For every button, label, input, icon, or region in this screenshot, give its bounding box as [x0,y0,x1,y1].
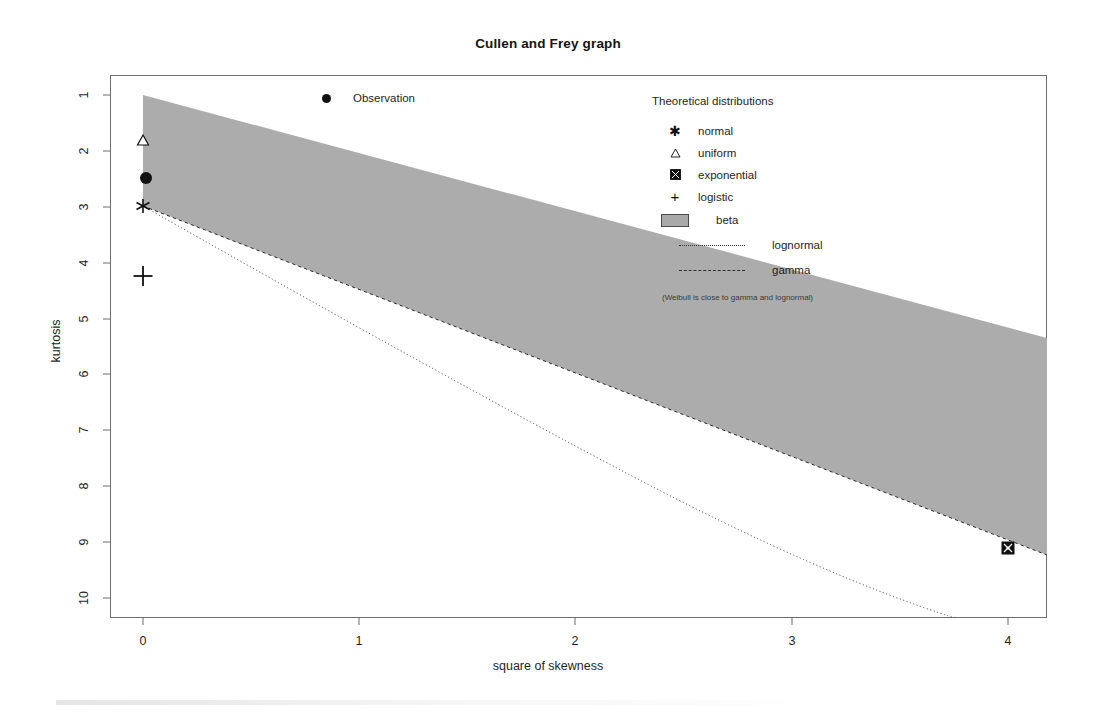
marker-observation [140,172,152,184]
legend-item-lognormal: lognormal [652,233,902,257]
observation-legend-label: Observation [353,92,415,104]
legend-item-beta: beta [652,208,902,232]
filled-circle-icon [322,94,331,103]
y-axis-ticks [100,75,110,618]
y-tick-10: 10 [77,581,91,615]
observation-legend: Observation [322,92,415,104]
legend-item-uniform: uniform [652,142,902,163]
y-tick-6: 6 [77,359,91,389]
x-tick-1: 1 [339,634,379,648]
marker-logistic [134,266,153,286]
x-tick-0: 0 [123,634,163,648]
cullen-frey-plot-canvas: Cullen and Frey graph [0,0,1096,720]
legend-item-exponential: exponential [652,164,902,185]
legend-item-normal: ✱ normal [652,120,902,141]
dotted-line-icon [652,245,772,246]
legend-label-beta: beta [716,214,738,226]
dashed-line-icon [652,270,772,271]
page-title: Cullen and Frey graph [0,36,1096,51]
theoretical-distributions-legend: Theoretical distributions ✱ normal unifo… [652,95,902,302]
plot-drawing-area [110,75,1047,618]
beta-region-texture [143,95,1047,555]
y-tick-5: 5 [77,304,91,334]
x-tick-3: 3 [772,634,812,648]
legend-label-exponential: exponential [698,169,757,181]
x-axis-title: square of skewness [0,659,1096,673]
legend-label-uniform: uniform [698,147,736,159]
legend-label-logistic: logistic [698,191,733,203]
gray-box-icon [652,214,698,227]
legend-note: (Weibull is close to gamma and lognormal… [662,293,902,302]
x-tick-4: 4 [988,634,1028,648]
y-tick-7: 7 [77,415,91,445]
marker-exponential [1002,542,1014,554]
y-tick-3: 3 [77,192,91,222]
legend-label-normal: normal [698,125,733,137]
y-tick-2: 2 [77,136,91,166]
legend-label-gamma: gamma [772,264,810,276]
triangle-icon [652,148,698,158]
y-axis-title: kurtosis [49,281,63,401]
asterisk-icon: ✱ [652,124,698,138]
x-tick-2: 2 [555,634,595,648]
theoretical-legend-heading: Theoretical distributions [652,95,902,107]
legend-item-gamma: gamma [652,258,902,282]
y-tick-4: 4 [77,248,91,278]
square-cross-icon [652,169,698,180]
y-tick-9: 9 [77,527,91,557]
legend-label-lognormal: lognormal [772,239,823,251]
y-tick-1: 1 [77,80,91,110]
scan-artifact [56,700,796,705]
plus-icon: + [652,189,698,204]
y-tick-8: 8 [77,471,91,501]
x-axis-ticks [110,618,1047,628]
legend-item-logistic: + logistic [652,186,902,207]
